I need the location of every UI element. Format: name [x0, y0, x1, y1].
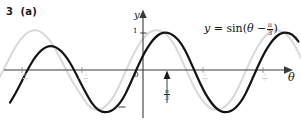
x-tick-den: 2 — [23, 78, 28, 84]
plot-canvas — [0, 0, 301, 126]
equation-label: y = sin(θ −π3) — [204, 22, 278, 36]
y-axis-label: y — [134, 9, 140, 20]
equation-close-paren: ) — [274, 22, 278, 35]
y-axis-arrowhead — [139, 10, 146, 19]
x-tick-den: 2 — [262, 78, 267, 84]
x-axis-label: θ — [288, 71, 295, 84]
shift-annotation-label: π3 — [160, 88, 174, 101]
x-tick-label-neg-pi-2: −π2 — [74, 73, 92, 83]
x-tick-sign: − — [17, 74, 22, 81]
equation-frac-num: π — [267, 22, 273, 29]
figure-graph-sine-shift: 3 (a) y θ — [0, 0, 301, 126]
equation-theta: θ — [247, 22, 254, 35]
x-tick-den: 2 — [83, 78, 88, 84]
x-tick-label-3pi-2: π2 — [256, 73, 274, 83]
shift-den: 3 — [164, 94, 170, 101]
equation-equals: = — [214, 22, 223, 35]
origin-label: 0 — [134, 71, 138, 79]
equation-function: sin( — [226, 22, 247, 35]
x-tick-den: 2 — [202, 78, 207, 84]
equation-minus: − — [257, 22, 266, 35]
equation-fraction: π3 — [267, 22, 273, 36]
x-tick-label-pi-2: π2 — [196, 73, 214, 83]
equation-lhs: y — [204, 22, 210, 35]
y-tick-label-one: 1 — [133, 27, 137, 35]
x-tick-sign: − — [77, 74, 82, 81]
x-tick-label-neg-3pi-2: −π2 — [14, 73, 32, 83]
equation-frac-den: 3 — [267, 29, 273, 37]
